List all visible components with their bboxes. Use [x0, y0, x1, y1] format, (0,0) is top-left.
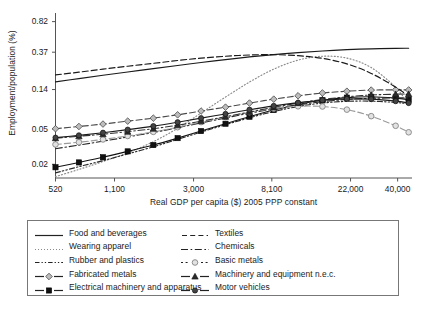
solid-line-key: [34, 227, 64, 238]
legend-item-label: Fabricated metals: [69, 269, 136, 279]
dashdotdot-line-key: [34, 254, 64, 265]
series-line-2: [56, 101, 409, 173]
series-line-0: [56, 48, 409, 82]
legend-item[interactable]: Motor vehicles: [180, 280, 394, 294]
chart-plot-area: Employment/population (%) Real GDP per c…: [0, 0, 426, 212]
x-tick-label: 8,100: [247, 184, 297, 194]
x-tick-label: 1,100: [90, 184, 140, 194]
chart-legend: Food and beveragesTextilesWearing appare…: [27, 220, 399, 296]
dotted-line-key: [34, 241, 64, 252]
legend-grid: Food and beveragesTextilesWearing appare…: [34, 226, 394, 294]
x-tick-label: 520: [31, 184, 81, 194]
legend-item[interactable]: Wearing apparel: [34, 240, 180, 254]
legend-item[interactable]: Textiles: [180, 226, 394, 240]
legend-item-label: Rubber and plastics: [69, 255, 144, 265]
legend-item[interactable]: Basic metals: [180, 253, 394, 267]
y-tick-label: 0.82: [18, 16, 48, 26]
dot-marker-key: [180, 282, 210, 293]
legend-item-label: Basic metals: [215, 255, 263, 265]
y-tick-label: 0.05: [18, 124, 48, 134]
legend-item-label: Wearing apparel: [69, 241, 131, 251]
y-tick-label: 0.02: [18, 159, 48, 169]
x-tick-label: 3,000: [169, 184, 219, 194]
legend-item-label: Motor vehicles: [215, 282, 270, 292]
legend-item[interactable]: Chemicals: [180, 240, 394, 254]
legend-item-label: Food and beverages: [69, 228, 147, 238]
x-tick-label: 40,000: [373, 184, 423, 194]
x-axis-label: Real GDP per capita ($) 2005 PPP constan…: [55, 197, 412, 207]
legend-item-label: Textiles: [215, 228, 243, 238]
diamond-marker-key: [34, 268, 64, 279]
chart-canvas: [0, 0, 426, 212]
y-tick-label: 0.37: [18, 47, 48, 57]
legend-item-label: Machinery and equipment n.e.c.: [215, 269, 336, 279]
legend-item[interactable]: Food and beverages: [34, 226, 180, 240]
legend-item[interactable]: Rubber and plastics: [34, 253, 180, 267]
legend-item[interactable]: Electrical machinery and apparatus: [34, 280, 180, 294]
circle-marker-key: [180, 254, 210, 265]
y-axis-label: Employment/population (%): [7, 8, 17, 158]
triangle-marker-key: [180, 268, 210, 279]
chart-figure: Employment/population (%) Real GDP per c…: [0, 0, 426, 315]
legend-item[interactable]: Fabricated metals: [34, 267, 180, 281]
legend-item-label: Chemicals: [215, 241, 255, 251]
y-tick-label: 0.14: [18, 84, 48, 94]
x-tick-label: 22,000: [326, 184, 376, 194]
square-marker-key: [34, 282, 64, 293]
dashed-line-key: [180, 227, 210, 238]
dashdot-line-key: [180, 241, 210, 252]
legend-item[interactable]: Machinery and equipment n.e.c.: [180, 267, 394, 281]
